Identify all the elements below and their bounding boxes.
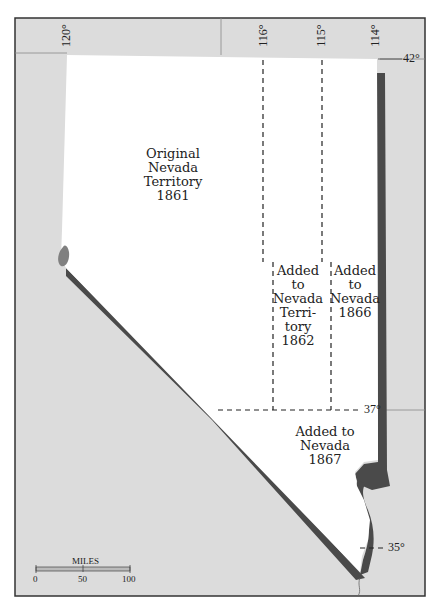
label-original-territory-1861: Original Nevada Territory 1861	[140, 147, 206, 203]
scale-tick-0: 0	[33, 574, 38, 584]
label-line: Added	[327, 264, 383, 278]
scale-label: MILES	[72, 556, 99, 566]
label-line: Nevada	[327, 292, 383, 306]
longitude-114: 114°	[368, 24, 383, 46]
scale-tick-50: 50	[78, 574, 87, 584]
label-line: Nevada	[285, 439, 365, 453]
label-line: tory	[270, 320, 326, 334]
latitude-42: 42°	[403, 51, 420, 66]
label-line: 1861	[140, 189, 206, 203]
label-line: Added to	[285, 425, 365, 439]
label-line: Added	[270, 264, 326, 278]
label-line: 1866	[327, 306, 383, 320]
label-line: Original	[140, 147, 206, 161]
label-line: Nevada	[270, 292, 326, 306]
latitude-37: 37°	[364, 402, 381, 417]
longitude-115: 115°	[314, 24, 329, 46]
label-line: 1867	[285, 453, 365, 467]
label-line: Territory	[140, 175, 206, 189]
scale-tick-100: 100	[122, 574, 136, 584]
longitude-116: 116°	[256, 24, 271, 46]
longitude-120: 120°	[59, 24, 74, 47]
label-added-1867: Added to Nevada 1867	[285, 425, 365, 467]
label-line: to	[327, 278, 383, 292]
label-line: to	[270, 278, 326, 292]
label-added-1866: Added to Nevada 1866	[327, 264, 383, 320]
label-line: Nevada	[140, 161, 206, 175]
label-line: Terri-	[270, 306, 326, 320]
label-line: 1862	[270, 334, 326, 348]
label-added-1862: Added to Nevada Terri- tory 1862	[270, 264, 326, 348]
latitude-35: 35°	[388, 540, 405, 555]
